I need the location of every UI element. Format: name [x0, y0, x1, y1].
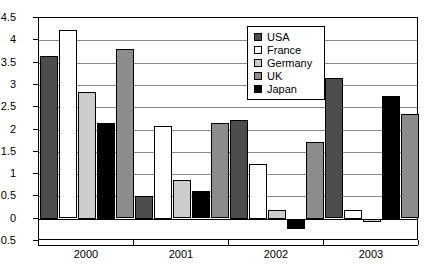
x-tick-label: 2001	[151, 249, 211, 260]
legend-item-uk[interactable]: UK	[254, 70, 318, 82]
bar-germany-2003	[363, 219, 381, 222]
bar-usa-2003	[325, 78, 343, 218]
y-tick-mark	[33, 218, 38, 219]
x-tick-label: 2000	[56, 249, 116, 260]
bar-japan-2001	[192, 191, 210, 218]
bar-usa-2001	[135, 196, 153, 219]
legend-item-japan[interactable]: Japan	[254, 83, 318, 95]
legend-label: USA	[267, 32, 290, 43]
legend-label: Germany	[267, 58, 312, 69]
plot-area	[38, 17, 418, 240]
legend-item-germany[interactable]: Germany	[254, 57, 318, 69]
bar-usa-2002	[230, 120, 248, 219]
x-tick-label: 2002	[246, 249, 306, 260]
gridline	[39, 85, 417, 86]
y-tick-mark	[33, 151, 38, 152]
bar-france-2001	[154, 126, 172, 219]
legend-items: USAFranceGermanyUKJapan	[254, 31, 318, 95]
legend-swatch-icon	[254, 59, 262, 67]
x-tick-label: 2003	[341, 249, 401, 260]
x-group-separator	[228, 240, 229, 245]
y-tick-label: 4.5	[0, 12, 16, 23]
bar-uk-2003	[401, 114, 419, 218]
y-tick-label: -0.5	[0, 235, 16, 246]
y-tick-label: 2	[0, 124, 16, 135]
gridline	[39, 63, 417, 64]
y-tick-mark	[33, 84, 38, 85]
bar-japan-2003	[382, 96, 400, 219]
y-tick-mark	[33, 106, 38, 107]
bar-france-2002	[249, 164, 267, 219]
legend-swatch-icon	[254, 72, 262, 80]
y-tick-label: 1.5	[0, 146, 16, 157]
x-axis-end-tick	[418, 240, 419, 245]
legend-swatch-icon	[254, 46, 262, 54]
y-tick-label: 3	[0, 79, 16, 90]
y-tick-label: 3.5	[0, 57, 16, 68]
legend-label: France	[267, 45, 301, 56]
legend-item-usa[interactable]: USA	[254, 31, 318, 43]
bar-germany-2000	[78, 92, 96, 219]
legend: USAFranceGermanyUKJapan	[247, 26, 325, 100]
y-tick-mark	[33, 173, 38, 174]
x-axis-end-tick	[38, 240, 39, 245]
bar-usa-2000	[40, 56, 58, 219]
y-tick-label: 0.5	[0, 190, 16, 201]
y-tick-mark	[33, 129, 38, 130]
y-tick-label: 4	[0, 34, 16, 45]
bar-germany-2001	[173, 180, 191, 218]
bar-uk-2002	[306, 142, 324, 219]
legend-swatch-icon	[254, 85, 262, 93]
y-tick-mark	[33, 39, 38, 40]
bar-uk-2000	[116, 49, 134, 218]
y-tick-label: 0	[0, 213, 16, 224]
x-group-separator	[133, 240, 134, 245]
legend-swatch-icon	[254, 33, 262, 41]
bar-germany-2002	[268, 210, 286, 219]
zero-line	[39, 219, 417, 220]
bar-japan-2002	[287, 219, 305, 229]
legend-label: UK	[267, 71, 282, 82]
bar-uk-2001	[211, 123, 229, 218]
bar-france-2003	[344, 210, 362, 219]
y-tick-label: 2.5	[0, 101, 16, 112]
bar-japan-2000	[97, 123, 115, 219]
y-tick-mark	[33, 62, 38, 63]
y-tick-mark	[33, 195, 38, 196]
legend-label: Japan	[267, 84, 297, 95]
bar-chart: 4.543.532.521.510.50-0.5 200020012002200…	[0, 0, 438, 271]
gridline	[39, 40, 417, 41]
legend-item-france[interactable]: France	[254, 44, 318, 56]
x-axis-line	[38, 245, 418, 246]
y-tick-label: 1	[0, 168, 16, 179]
bar-france-2000	[59, 30, 77, 218]
y-tick-mark	[33, 17, 38, 18]
x-group-separator	[323, 240, 324, 245]
